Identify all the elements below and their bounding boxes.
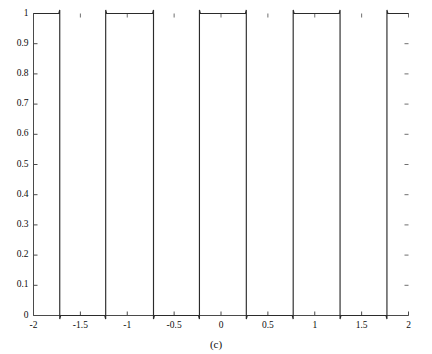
- y-tick-label: 1: [24, 9, 29, 19]
- y-tick-label: 0.9: [17, 39, 29, 49]
- x-tick-label: -0.5: [154, 321, 194, 331]
- y-tick-label: 0.4: [17, 190, 29, 200]
- y-tick-label: 0.2: [17, 250, 29, 260]
- x-tick-label: -1: [107, 321, 147, 331]
- square-wave-plot: [0, 0, 432, 354]
- x-tick-label: -2: [14, 321, 54, 331]
- x-tick-label: 2: [389, 321, 429, 331]
- y-tick-label: 0.7: [17, 99, 29, 109]
- tick-marks: [34, 14, 409, 316]
- axes: [34, 14, 409, 316]
- y-tick-label: 0.5: [17, 160, 29, 170]
- y-tick-label: 0.6: [17, 129, 29, 139]
- x-tick-label: -1.5: [60, 321, 100, 331]
- data-line: [34, 10, 409, 319]
- x-tick-label: 1: [295, 321, 335, 331]
- figure-panel: 00.10.20.30.40.50.60.70.80.91-2-1.5-1-0.…: [0, 0, 432, 354]
- x-tick-label: 1.5: [342, 321, 382, 331]
- y-tick-label: 0: [24, 311, 29, 321]
- figure-caption: (c): [0, 338, 432, 350]
- y-tick-label: 0.8: [17, 69, 29, 79]
- y-tick-label: 0.1: [17, 280, 29, 290]
- y-tick-label: 0.3: [17, 220, 29, 230]
- x-tick-label: 0.5: [248, 321, 288, 331]
- x-tick-label: 0: [201, 321, 241, 331]
